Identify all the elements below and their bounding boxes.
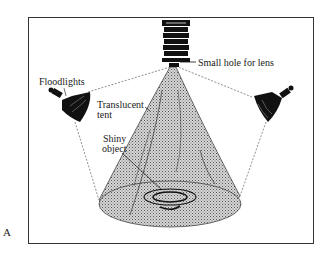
floodlight-right-icon bbox=[254, 86, 294, 123]
camera-icon bbox=[162, 20, 190, 67]
diagram-stage: Small hole for lens Floodlights Transluc… bbox=[0, 0, 333, 254]
label-small-hole: Small hole for lens bbox=[198, 58, 274, 68]
floodlight-left-icon bbox=[49, 88, 91, 123]
label-floodlights: Floodlights bbox=[39, 77, 85, 87]
label-tent: tent bbox=[97, 110, 112, 120]
tent-base bbox=[99, 181, 241, 227]
diagram-svg bbox=[0, 0, 333, 254]
figure-letter: A bbox=[3, 226, 11, 238]
floodlights-leader bbox=[64, 88, 66, 96]
label-object: object bbox=[102, 144, 126, 154]
